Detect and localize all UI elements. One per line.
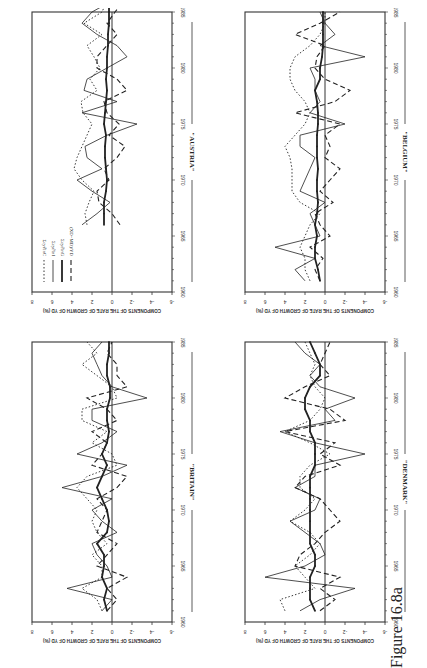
year-tick-label: 1975: [180, 448, 186, 459]
year-tick-label: 1965: [393, 230, 399, 241]
value-tick-label: -6: [170, 299, 175, 305]
series-line: [285, 12, 325, 281]
panel-austria: 86420-2-4-6196019651970197519801985COMPO…: [12, 8, 210, 328]
value-tick-label: -2: [343, 629, 348, 635]
year-tick-label: 1970: [180, 174, 186, 185]
value-tick-label: 4: [70, 629, 73, 635]
value-tick-label: -4: [150, 299, 155, 305]
year-tick-label: 1985: [393, 338, 399, 348]
value-tick-label: 8: [30, 299, 33, 305]
value-tick-label: 8: [30, 629, 33, 635]
plot-frame: [245, 342, 385, 622]
axis-label: COMPONENTS OF THE RATE OF GROWTH OF YD (…: [43, 308, 161, 313]
value-tick-label: -6: [383, 629, 388, 635]
series-line: [62, 342, 147, 611]
value-tick-label: 2: [90, 629, 93, 635]
value-tick-label: 0: [110, 299, 113, 305]
year-tick-label: 1980: [180, 62, 186, 73]
series-line: [77, 342, 117, 611]
year-tick-label: 1980: [393, 62, 399, 73]
panel-title: "BRITAIN": [188, 463, 196, 500]
value-tick-label: -4: [363, 299, 368, 305]
value-tick-label: -2: [130, 629, 135, 635]
value-tick-label: -4: [150, 629, 155, 635]
year-tick-label: 1985: [180, 338, 186, 348]
year-tick-label: 1975: [393, 448, 399, 459]
year-tick-label: 1965: [180, 560, 186, 571]
value-tick-label: 6: [263, 299, 266, 305]
value-tick-label: -6: [170, 629, 175, 635]
axis-label: COMPONENTS OF THE RATE OF GROWTH OF YD (…: [256, 308, 374, 313]
year-tick-label: 1980: [180, 392, 186, 403]
panel-title: "AUSTRIA": [188, 132, 196, 171]
figure-caption-text: Figure 16.8a: [388, 587, 406, 668]
value-tick-label: 0: [110, 629, 113, 635]
value-tick-label: 4: [283, 629, 286, 635]
value-tick-label: 0: [323, 629, 326, 635]
value-tick-label: 2: [90, 299, 93, 305]
panel-title: "DENMARK": [401, 460, 409, 505]
year-tick-label: 1960: [393, 286, 399, 297]
value-tick-label: -6: [383, 299, 388, 305]
year-tick-label: 1965: [393, 560, 399, 571]
value-tick-label: -2: [130, 299, 135, 305]
value-tick-label: 0: [323, 299, 326, 305]
year-tick-label: 1985: [180, 8, 186, 18]
value-tick-label: 6: [50, 299, 53, 305]
panel-britain: 86420-2-4-6196019651970197519801985COMPO…: [12, 338, 210, 658]
axis-label: COMPONENTS OF THE RATE OF GROWTH OF YD (…: [256, 638, 374, 643]
value-tick-label: 6: [50, 629, 53, 635]
value-tick-label: -4: [363, 629, 368, 635]
panel-title: "BELGIUM": [401, 131, 409, 173]
legend-entry: Σcy∂lnI: [51, 241, 56, 256]
series-line: [104, 8, 109, 225]
value-tick-label: 8: [243, 629, 246, 635]
year-tick-label: 1970: [393, 174, 399, 185]
year-tick-label: 1975: [393, 118, 399, 129]
year-tick-label: 1960: [180, 286, 186, 297]
year-tick-label: 1975: [180, 118, 186, 129]
value-tick-label: 2: [303, 299, 306, 305]
value-tick-label: 4: [70, 299, 73, 305]
year-tick-label: 1980: [393, 392, 399, 403]
legend-entry: (XD−MD)/YD: [69, 227, 74, 256]
year-tick-label: 1970: [393, 504, 399, 515]
series-line: [275, 12, 365, 281]
year-tick-label: 1960: [180, 616, 186, 627]
year-tick-label: 1970: [180, 504, 186, 515]
value-tick-label: -2: [343, 299, 348, 305]
panel-belgium: 86420-2-4-6196019651970197519801985COMPO…: [225, 8, 423, 328]
value-tick-label: 8: [243, 299, 246, 305]
legend-entry: Σcy∂lnG: [60, 239, 65, 256]
series-line: [87, 342, 127, 611]
legend-entry: Σcy∂lnC: [42, 239, 47, 256]
axis-label: COMPONENTS OF THE RATE OF GROWTH OF YD (…: [43, 638, 161, 643]
year-tick-label: 1985: [393, 8, 399, 18]
value-tick-label: 6: [263, 629, 266, 635]
value-tick-label: 2: [303, 629, 306, 635]
legend: Σcy∂lnCΣcy∂lnIΣcy∂lnG(XD−MD)/YD: [42, 227, 74, 282]
value-tick-label: 4: [283, 299, 286, 305]
year-tick-label: 1965: [180, 230, 186, 241]
series-line: [74, 8, 107, 225]
